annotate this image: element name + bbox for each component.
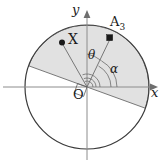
angle-label-theta: θ: [88, 49, 95, 61]
point-label-a3-base: A: [110, 14, 119, 29]
angle-label-alpha: α: [110, 63, 118, 75]
point-label-x: X: [68, 32, 78, 46]
point-label-a3: A3: [110, 15, 125, 32]
geometry-figure: y x O X A3 θ α: [0, 0, 166, 167]
shaded-sector-group: [29, 25, 149, 108]
point-marker-a3: [107, 35, 113, 41]
origin-label: O: [73, 88, 84, 101]
point-label-a3-subscript: 3: [119, 22, 125, 32]
shaded-sector: [29, 25, 149, 108]
arrow-up-icon: [84, 10, 91, 18]
x-axis-label: x: [151, 86, 158, 99]
figure-canvas: [0, 0, 166, 167]
point-marker-x: [59, 40, 65, 46]
y-axis-label: y: [72, 3, 79, 16]
